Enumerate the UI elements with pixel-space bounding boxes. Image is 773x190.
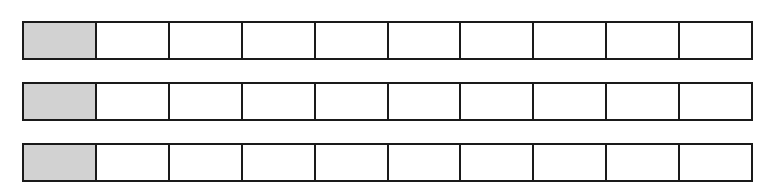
empty-cell xyxy=(97,145,170,180)
empty-cell xyxy=(170,84,243,119)
shaded-cell xyxy=(24,145,97,180)
empty-cell xyxy=(389,145,462,180)
empty-cell xyxy=(316,23,389,58)
empty-cell xyxy=(534,84,607,119)
empty-cell xyxy=(680,23,751,58)
empty-cell xyxy=(534,23,607,58)
empty-cell xyxy=(243,145,316,180)
empty-cell xyxy=(607,84,680,119)
empty-cell xyxy=(534,145,607,180)
shaded-cell xyxy=(24,23,97,58)
empty-cell xyxy=(170,145,243,180)
empty-cell xyxy=(461,84,534,119)
strip-row-2 xyxy=(22,82,753,121)
empty-cell xyxy=(97,23,170,58)
strip-row-3 xyxy=(22,143,753,182)
empty-cell xyxy=(607,23,680,58)
empty-cell xyxy=(461,23,534,58)
empty-cell xyxy=(243,23,316,58)
empty-cell xyxy=(607,145,680,180)
empty-cell xyxy=(680,84,751,119)
empty-cell xyxy=(243,84,316,119)
empty-cell xyxy=(680,145,751,180)
shaded-cell xyxy=(24,84,97,119)
empty-cell xyxy=(461,145,534,180)
empty-cell xyxy=(316,145,389,180)
empty-cell xyxy=(170,23,243,58)
empty-cell xyxy=(97,84,170,119)
strip-row-1 xyxy=(22,21,753,60)
empty-cell xyxy=(316,84,389,119)
empty-cell xyxy=(389,23,462,58)
empty-cell xyxy=(389,84,462,119)
